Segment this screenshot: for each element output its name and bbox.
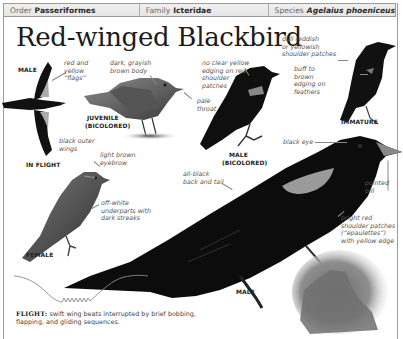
leader-line	[360, 74, 368, 75]
flight-label: FLIGHT:	[16, 310, 47, 317]
annotation-red-yellow-flags: red and yellow “flags”	[64, 59, 88, 82]
field-guide-page: Order Passeriformes Family Icteridae Spe…	[0, 0, 403, 339]
annotation-black-eye: black eye	[283, 138, 313, 146]
flight-description: FLIGHT: swift wing beats interrupted by …	[16, 310, 196, 327]
figure-label-male-bicolored-paren: (BICOLORED)	[222, 159, 267, 167]
annotation-dark-grayish-body: dark, grayish brown body	[110, 59, 151, 74]
annotation-dull-shoulder-patches: dull reddish or yellowish shoulder patch…	[282, 35, 336, 58]
annotation-buff-brown-edging: buff to brown edging on feathers	[294, 65, 325, 95]
annotation-pale-throat: pale throat	[197, 97, 216, 112]
leader-line	[338, 60, 348, 61]
leader-line	[315, 142, 347, 143]
annotation-pointed-bill: pointed bill	[365, 179, 389, 194]
figure-label-male-bicolored: MALE	[229, 151, 248, 159]
figure-label-female: FEMALE	[26, 251, 53, 259]
annotation-bright-red-epaulettes: bright red shoulder patches (“epaulettes…	[341, 214, 395, 244]
figure-label-immature: IMMATURE	[341, 118, 378, 126]
figure-label-in-flight: IN FLIGHT	[26, 161, 60, 169]
juvenile-figure	[84, 78, 184, 140]
annotation-light-brown-eyebrow: light brown eyebrow	[100, 151, 136, 166]
immature-figure	[340, 42, 396, 124]
annotation-no-yellow-edging: no clear yellow edging on red shoulder p…	[202, 59, 249, 89]
female-figure	[22, 172, 110, 262]
figure-label-juvenile-bicolored: (BICOLORED)	[85, 122, 130, 130]
figure-label-juvenile: JUVENILE	[87, 114, 119, 122]
annotation-black-outer-wings: black outer wings	[59, 137, 95, 152]
annotation-all-black-back: all-black back and tail	[183, 170, 224, 185]
figure-label-male-flight: MALE	[18, 66, 37, 74]
figure-label-male: MALE	[236, 288, 255, 296]
annotation-off-white-underparts: off-white underparts with dark streaks	[101, 199, 151, 222]
